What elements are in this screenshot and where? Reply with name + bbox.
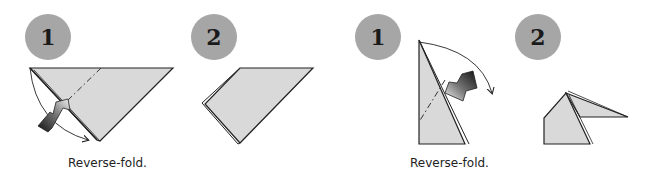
origami-diagram: 1 2 1 2 Reverse-fold. Reverse-fold. [0,0,653,184]
step-badge-left-1: 1 [25,14,71,60]
step-badge-right-2: 2 [515,14,561,60]
push-arrow-icon [445,71,477,101]
push-arrow-icon [38,99,70,132]
step-number: 1 [40,26,55,48]
step-badge-left-2: 2 [191,14,237,60]
paper-triangle [30,68,173,141]
step-number: 1 [370,26,385,48]
caption-left: Reverse-fold. [68,156,147,170]
left-step1-figure [30,68,173,141]
step-number: 2 [206,26,221,48]
right-step2-figure [544,91,628,144]
caption-right: Reverse-fold. [410,156,489,170]
step-number: 2 [530,26,545,48]
left-step2-figure [202,68,313,144]
right-step1-figure [419,40,492,144]
folded-paper [205,68,313,143]
step-badge-right-1: 1 [355,14,401,60]
